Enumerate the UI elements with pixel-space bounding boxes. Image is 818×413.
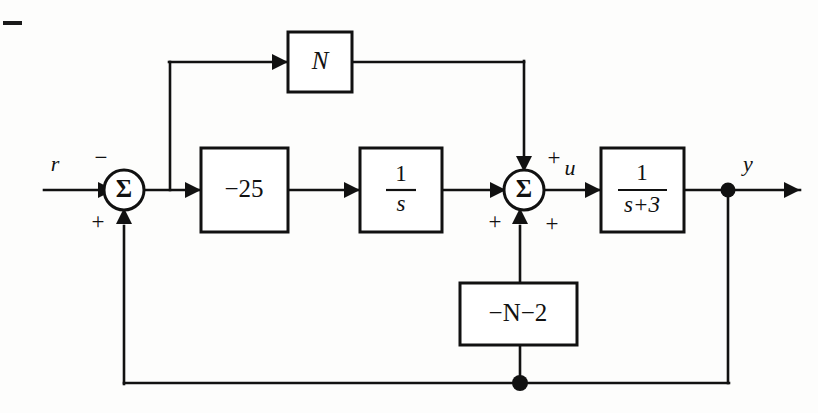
block-integrator-numerator: 1 <box>395 161 407 186</box>
sign-sum-right-bottomright-plus: + <box>546 211 559 236</box>
block-diagram-svg: Σ Σ − + + + + N −25 1 s 1 s+3 −N−2 r u <box>0 0 818 413</box>
arrowhead-into-integrator <box>344 182 360 198</box>
arrowhead-into-gain-N <box>272 54 288 70</box>
sign-sum-left-top-minus: − <box>95 145 108 170</box>
sign-sum-left-bottom-plus: + <box>92 209 105 234</box>
block-gain-minus25-label: −25 <box>224 175 263 202</box>
arrowhead-into-gain-m25 <box>185 182 201 198</box>
scan-artifact-dash <box>3 21 22 25</box>
signal-label-r: r <box>51 151 60 176</box>
signal-label-u: u <box>565 155 576 180</box>
block-gain-N-label: N <box>311 47 330 74</box>
signal-label-y: y <box>741 151 753 176</box>
sign-sum-right-bottomleft-plus: + <box>489 209 502 234</box>
summing-junction-left-glyph: Σ <box>116 175 132 202</box>
sign-sum-right-top-plus: + <box>548 145 561 170</box>
arrowhead-output-y <box>784 182 800 198</box>
summing-junction-right-glyph: Σ <box>516 175 532 202</box>
block-plant-numerator: 1 <box>636 160 648 185</box>
block-feedback-gain-label: −N−2 <box>489 299 548 326</box>
output-tap-dot <box>721 183 736 198</box>
block-plant-denominator: s+3 <box>624 192 660 217</box>
block-integrator-denominator: s <box>397 191 406 216</box>
feedback-tap-dot <box>512 375 528 391</box>
arrowhead-into-plant <box>585 182 601 198</box>
block-diagram-canvas: Σ Σ − + + + + N −25 1 s 1 s+3 −N−2 r u <box>0 0 818 413</box>
